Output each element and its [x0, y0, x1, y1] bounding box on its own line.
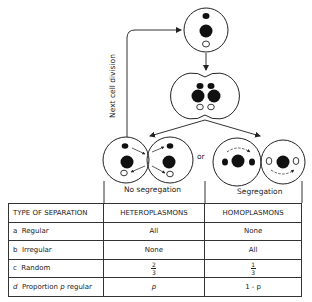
no-segregation-cells [103, 137, 193, 183]
row-type: a Regular [9, 222, 104, 241]
header-type: TYPE OF SEPARATION [9, 204, 104, 223]
header-heteroplasmons: HETEROPLASMONS [103, 204, 205, 223]
row-hetero: All [103, 222, 205, 241]
next-cell-division-label: Next cell division [108, 54, 117, 118]
table-header-row: TYPE OF SEPARATION HETEROPLASMONS HOMOPL… [9, 204, 302, 223]
segregation-label: Segregation [237, 187, 282, 196]
row-homo: None [205, 222, 302, 241]
branch-arrow-right [205, 120, 260, 136]
row-hetero: None [103, 241, 205, 260]
row-hetero: 23 [103, 259, 205, 278]
row-type: b Irregular [9, 241, 104, 260]
branch-arrow-left [150, 120, 205, 136]
row-homo: 13 [205, 259, 302, 278]
segregation-cells [213, 138, 305, 186]
row-type: c Random [9, 259, 104, 278]
row-type: d Proportion p regular [9, 278, 104, 297]
table-row: a Regular All None [9, 222, 302, 241]
next-division-arrow [127, 30, 181, 137]
dividing-cell [168, 73, 239, 119]
or-label: or [197, 152, 205, 161]
table-row: d Proportion p regular p 1 - p [9, 278, 302, 297]
table-row: b Irregular None All [9, 241, 302, 260]
no-segregation-label: No segregation [124, 185, 181, 194]
row-homo: All [205, 241, 302, 260]
fraction: 23 [151, 262, 156, 276]
parent-cell [184, 8, 228, 52]
fraction: 13 [251, 262, 256, 276]
separation-table: TYPE OF SEPARATION HETEROPLASMONS HOMOPL… [8, 203, 302, 297]
row-hetero: p [103, 278, 205, 297]
header-homoplasmons: HOMOPLASMONS [205, 204, 302, 223]
row-homo: 1 - p [205, 278, 302, 297]
table-row: c Random 23 13 [9, 259, 302, 278]
